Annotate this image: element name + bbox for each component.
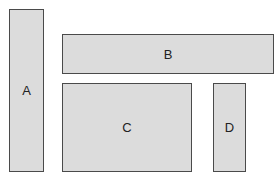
box-a: A	[9, 9, 44, 172]
diagram-canvas: A B C D	[0, 0, 277, 181]
box-b-label: B	[164, 47, 173, 62]
box-b: B	[62, 34, 274, 74]
box-d: D	[213, 83, 246, 172]
box-c-label: C	[122, 120, 131, 135]
box-d-label: D	[225, 120, 234, 135]
box-a-label: A	[22, 83, 31, 98]
box-c: C	[62, 83, 192, 172]
